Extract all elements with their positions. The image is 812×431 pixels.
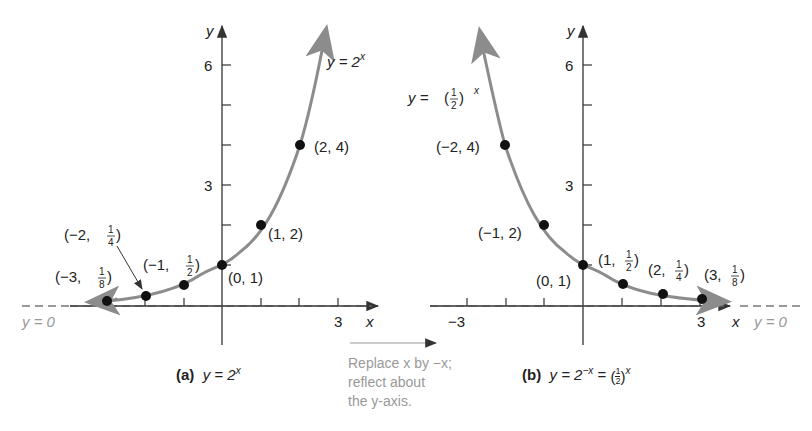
y-ticks [222, 65, 231, 265]
svg-text:y =: y = [407, 89, 429, 106]
point-label-3-eighth: (3, 1 8 ) [704, 264, 745, 288]
caption-b: (b) y = 2−x = (12)x [522, 365, 630, 386]
y-tick-6: 6 [204, 57, 212, 74]
point-label-m2-4: (−2, 4) [436, 138, 480, 155]
svg-text:1: 1 [99, 266, 105, 277]
curve-label-b: y = ( 1 2 ) x [407, 85, 480, 111]
svg-text:): ) [195, 256, 200, 273]
point-label-m2-quarter: (−2, 1 4 ) [64, 224, 121, 248]
svg-text:): ) [107, 268, 112, 285]
panel-b-graph: y x 6 3 3 −3 y = 0 y = ( 1 2 ) x (−2, 4)… [407, 22, 800, 345]
asymptote-label-b: y = 0 [753, 313, 788, 330]
point-label-0-1-b: (0, 1) [536, 272, 571, 289]
label-pointer [117, 246, 142, 289]
point-label-2-4: (2, 4) [314, 138, 349, 155]
y-ticks-b [583, 65, 592, 265]
point-label-2-quarter: (2, 1 4 ) [648, 259, 689, 283]
curve-label-a: y = 2x [326, 51, 366, 70]
y-tick-6-b: 6 [565, 57, 573, 74]
svg-text:x: x [473, 85, 480, 96]
svg-text:): ) [634, 251, 639, 268]
svg-text:8: 8 [732, 277, 738, 288]
svg-text:(−1,: (−1, [143, 256, 169, 273]
curve-2-pow-x [107, 35, 325, 301]
x-tick-3-b: 3 [697, 313, 705, 330]
svg-text:(3,: (3, [704, 266, 722, 283]
svg-text:8: 8 [99, 279, 105, 290]
x-tick-3: 3 [334, 313, 342, 330]
svg-text:): ) [684, 261, 689, 278]
asymptote-label: y = 0 [21, 313, 56, 330]
svg-text:4: 4 [108, 237, 114, 248]
svg-text:1: 1 [187, 254, 193, 265]
svg-text:(−2,: (−2, [64, 226, 90, 243]
caption-a: (a) y = 2x [176, 365, 241, 383]
y-tick-3: 3 [204, 177, 212, 194]
point-label-1-half: (1, 1 2 ) [598, 249, 639, 273]
y-axis-label-b: y [566, 22, 576, 39]
point-label-0-1: (0, 1) [228, 269, 263, 286]
svg-text:2: 2 [187, 267, 193, 278]
point-label-m1-half: (−1, 1 2 ) [143, 254, 200, 278]
point-label-1-2: (1, 2) [268, 225, 303, 242]
point-label-m3-eighth: (−3, 1 8 ) [55, 266, 112, 290]
svg-text:1: 1 [732, 264, 738, 275]
svg-text:(1,: (1, [598, 251, 616, 268]
svg-text:2: 2 [451, 100, 457, 111]
points-a [102, 140, 305, 306]
point-label-m1-2: (−1, 2) [478, 224, 522, 241]
x-axis-label-b: x [731, 313, 740, 330]
svg-text:): ) [740, 266, 745, 283]
svg-text:2: 2 [626, 262, 632, 273]
svg-text:4: 4 [676, 272, 682, 283]
svg-text:(: ( [444, 89, 449, 106]
svg-text:): ) [459, 89, 464, 106]
svg-text:1: 1 [451, 87, 457, 98]
svg-text:): ) [116, 226, 121, 243]
svg-text:1: 1 [108, 224, 114, 235]
svg-text:1: 1 [626, 249, 632, 260]
panel-a-graph: y x 6 3 3 y = 0 y = 2x (2, 4) (1, 2) (0,… [21, 22, 378, 345]
svg-text:1: 1 [676, 259, 682, 270]
svg-text:(−3,: (−3, [55, 268, 81, 285]
transform-note: Replace x by −x; reflect about the y-axi… [348, 354, 452, 411]
y-tick-3-b: 3 [565, 177, 573, 194]
y-axis-label: y [205, 22, 215, 39]
x-tick-neg3-b: −3 [448, 313, 465, 330]
svg-text:(2,: (2, [648, 261, 666, 278]
x-axis-label: x [365, 313, 374, 330]
